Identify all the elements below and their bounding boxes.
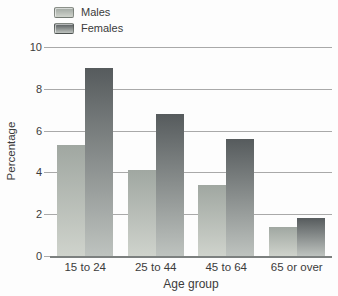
y-tick-label-8: 8 [36,83,42,95]
females-swatch-icon [54,23,74,34]
y-tick-label-6: 6 [36,125,42,137]
y-tick-label-10: 10 [30,41,42,53]
legend: MalesFemales [54,5,123,35]
gridline-10 [50,47,332,48]
males-bar [198,185,226,256]
x-axis-title: Age group [50,277,332,291]
y-tick-label-0: 0 [36,250,42,262]
y-tick-label-2: 2 [36,208,42,220]
bar-group-4 [262,218,332,256]
y-tick-mark-6 [44,131,50,132]
males-bar [269,227,297,256]
y-tick-mark-2 [44,214,50,215]
y-tick-mark-4 [44,172,50,173]
y-tick-mark-10 [44,47,50,48]
females-bar [226,139,254,256]
y-tick-mark-8 [44,89,50,90]
males-bar [128,170,156,256]
bar-chart: MalesFemales Percentage 0246810 15 to 24… [0,0,338,296]
plot-area [50,47,332,256]
legend-item-males: Males [54,5,123,19]
females-bar [156,114,184,256]
males-bar [57,145,85,256]
males-swatch-icon [54,7,74,18]
x-category-label-4: 65 or over [262,261,332,273]
legend-label-females: Females [81,22,123,34]
legend-label-males: Males [81,6,110,18]
bar-group-2 [121,114,191,256]
x-category-labels: 15 to 2425 to 4445 to 6465 or over [50,261,332,273]
y-tick-label-4: 4 [36,166,42,178]
legend-item-females: Females [54,21,123,35]
females-bar [85,68,113,256]
y-tick-labels: 0246810 [0,47,42,256]
bar-group-1 [50,68,120,256]
bar-group-3 [191,139,261,256]
y-tick-mark-0 [44,256,50,257]
x-category-label-2: 25 to 44 [121,261,191,273]
females-bar [297,218,325,256]
x-category-label-1: 15 to 24 [50,261,120,273]
x-category-label-3: 45 to 64 [191,261,261,273]
